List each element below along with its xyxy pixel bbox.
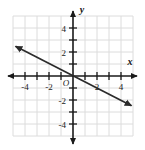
x-tick-label-2: 2 (95, 82, 100, 92)
y-axis-label: y (79, 4, 85, 15)
x-axis-label: x (127, 56, 133, 67)
coordinate-plane-figure: -4 -2 2 4 4 2 -2 -4 O x y (0, 0, 145, 150)
graph-canvas: -4 -2 2 4 4 2 -2 -4 O x y (0, 0, 145, 150)
y-tick-label-2: 2 (62, 48, 67, 58)
origin-label: O (63, 78, 70, 88)
y-tick-label-neg4: -4 (59, 120, 67, 130)
x-tick-label-neg4: -4 (21, 82, 29, 92)
y-tick-label-neg2: -2 (59, 96, 67, 106)
y-tick-label-4: 4 (62, 24, 67, 34)
x-tick-label-neg2: -2 (45, 82, 53, 92)
x-tick-label-4: 4 (119, 82, 124, 92)
